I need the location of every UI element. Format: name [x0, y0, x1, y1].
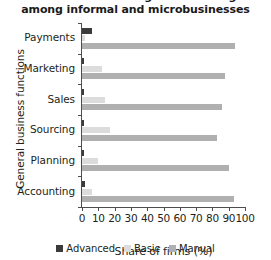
bar-payments-advanced — [82, 28, 92, 34]
x-tick — [164, 207, 165, 211]
x-tick-label: 40 — [141, 212, 154, 224]
x-tick — [212, 207, 213, 211]
bar-group: Sourcing — [82, 115, 245, 146]
x-tick — [229, 207, 230, 211]
x-tick — [131, 207, 132, 211]
y-tick — [78, 84, 82, 85]
bar-group: Sales — [82, 84, 245, 115]
chart-legend: AdvancedBasicManual — [0, 243, 271, 254]
bar-planning-advanced — [82, 150, 84, 156]
x-tick — [147, 207, 148, 211]
bar-sourcing-manual — [82, 135, 217, 141]
y-axis-title: General business functions — [14, 34, 26, 204]
plot-area: PaymentsMarketingSalesSourcingPlanningAc… — [82, 23, 245, 207]
legend-swatch-icon — [124, 245, 131, 252]
x-tick-label: 70 — [190, 212, 203, 224]
x-tick-label: 10 — [92, 212, 105, 224]
legend-swatch-icon — [56, 245, 63, 252]
legend-label: Advanced — [66, 243, 115, 254]
x-tick-label: 100 — [236, 212, 255, 224]
legend-swatch-icon — [169, 245, 176, 252]
bar-sales-manual — [82, 104, 222, 110]
x-tick — [82, 207, 83, 211]
bar-sales-basic — [82, 97, 105, 103]
x-tick-label: 0 — [79, 212, 85, 224]
category-label-sourcing: Sourcing — [0, 123, 75, 135]
y-tick — [78, 23, 82, 24]
bar-accounting-basic — [82, 189, 92, 195]
x-tick — [196, 207, 197, 211]
x-tick-label: 80 — [206, 212, 219, 224]
x-tick-label: 60 — [174, 212, 187, 224]
category-label-sales: Sales — [0, 93, 75, 105]
bar-payments-manual — [82, 43, 235, 49]
legend-label: Basic — [134, 243, 160, 254]
chart-container: c. Intensive use of digital technologies… — [0, 0, 271, 260]
bar-marketing-advanced — [82, 58, 84, 64]
x-tick — [245, 207, 246, 211]
bar-group: Planning — [82, 146, 245, 177]
bar-marketing-manual — [82, 73, 225, 79]
x-tick-label: 20 — [108, 212, 121, 224]
bar-planning-basic — [82, 158, 98, 164]
bar-group: Payments — [82, 23, 245, 54]
bar-group: Marketing — [82, 54, 245, 85]
bar-accounting-manual — [82, 196, 234, 202]
y-tick — [78, 54, 82, 55]
legend-item-manual[interactable]: Manual — [169, 243, 215, 254]
y-tick — [78, 176, 82, 177]
y-tick — [78, 115, 82, 116]
y-tick — [78, 146, 82, 147]
legend-label: Manual — [179, 243, 215, 254]
x-tick-label: 50 — [157, 212, 170, 224]
bar-payments-basic — [82, 35, 85, 41]
category-label-accounting: Accounting — [0, 185, 75, 197]
category-label-marketing: Marketing — [0, 62, 75, 74]
x-tick — [98, 207, 99, 211]
legend-item-basic[interactable]: Basic — [124, 243, 160, 254]
legend-item-advanced[interactable]: Advanced — [56, 243, 115, 254]
x-tick — [115, 207, 116, 211]
category-label-payments: Payments — [0, 31, 75, 43]
x-tick-label: 90 — [222, 212, 235, 224]
bar-planning-manual — [82, 165, 229, 171]
bar-marketing-basic — [82, 66, 102, 72]
bar-sourcing-advanced — [82, 120, 84, 126]
x-tick-label: 30 — [125, 212, 138, 224]
bar-sourcing-basic — [82, 127, 110, 133]
category-label-planning: Planning — [0, 154, 75, 166]
x-tick — [180, 207, 181, 211]
bar-group: Accounting — [82, 176, 245, 207]
bar-accounting-advanced — [82, 181, 85, 187]
chart-title: c. Intensive use of digital technologies… — [0, 0, 271, 16]
bar-sales-advanced — [82, 89, 84, 95]
